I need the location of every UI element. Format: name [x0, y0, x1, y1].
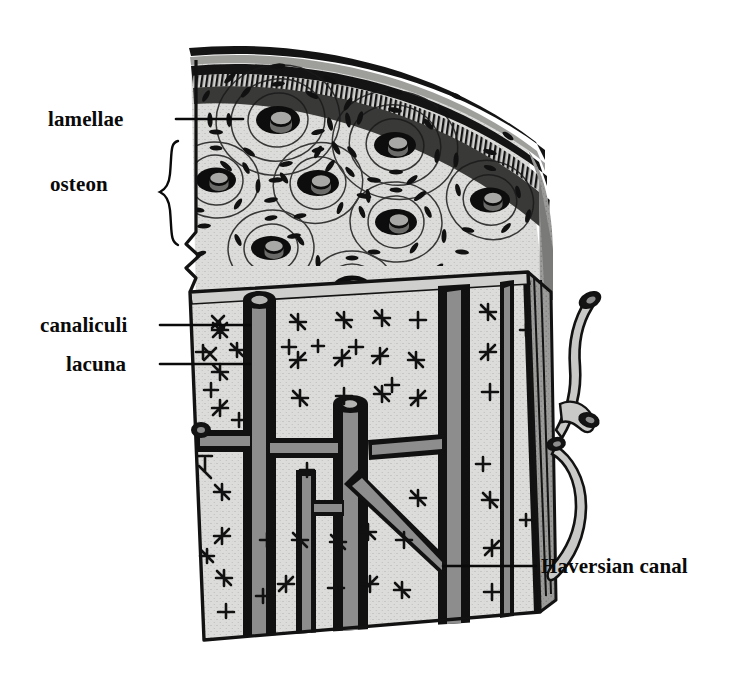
- label-lamellae: lamellae: [48, 107, 123, 132]
- label-osteon: osteon: [50, 172, 108, 197]
- figure-canvas: lamellae osteon canaliculi lacuna Havers…: [0, 0, 738, 676]
- label-canaliculi: canaliculi: [40, 313, 127, 338]
- label-haversian-canal: Haversian canal: [541, 554, 688, 579]
- osteon-bracket: [160, 141, 178, 245]
- longitudinal-section: [190, 272, 556, 642]
- label-lacuna: lacuna: [66, 352, 126, 377]
